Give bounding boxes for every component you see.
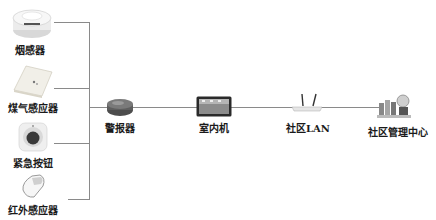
alarm-label: 警报器: [105, 120, 135, 135]
alarm-icon: [105, 97, 135, 117]
smoke-connector: [54, 22, 90, 23]
indoor-unit-icon: [196, 96, 232, 117]
router-label: 社区LAN: [286, 120, 330, 135]
infrared-sensor-label: 红外感应器: [8, 202, 58, 217]
sensor-bus-vertical: [89, 22, 90, 200]
router-icon: [290, 92, 324, 112]
router-node: [290, 92, 324, 112]
ir-connector: [68, 199, 90, 200]
indoor-unit-label: 室内机: [199, 120, 229, 135]
alarm-node: [105, 97, 135, 117]
infrared-sensor-icon: [18, 172, 48, 200]
emergency-button-label: 紧急按钮: [13, 155, 53, 170]
infrared-sensor-node: [18, 172, 48, 200]
management-center-icon: [375, 93, 413, 121]
gas-sensor-node: [10, 62, 54, 98]
management-center-node: [375, 93, 413, 121]
management-center-label: 社区管理中心: [368, 124, 428, 139]
gas-sensor-label: 煤气感应器: [8, 100, 58, 115]
button-connector: [54, 143, 90, 144]
smoke-detector-label: 烟感器: [15, 42, 45, 57]
emergency-button-icon: [18, 122, 48, 152]
gas-sensor-icon: [10, 62, 54, 98]
smoke-detector-icon: [10, 4, 54, 40]
gas-connector: [54, 88, 90, 89]
emergency-button-node: [18, 122, 48, 152]
smoke-detector-node: [10, 4, 54, 40]
indoor-unit-node: [196, 96, 232, 117]
